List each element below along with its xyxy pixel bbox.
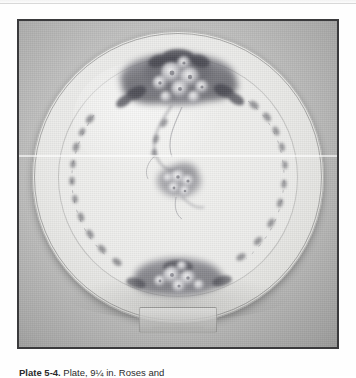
plate-floral-decoration [32,31,324,323]
bottom-floral-cluster [125,258,233,296]
garland-trail-right [235,99,288,262]
garland-trail-left [69,113,123,268]
caption-label: Plate 5-4. [19,367,61,378]
center-floral-spray [157,163,204,219]
center-spray-stem [182,197,204,208]
garland-line-right [246,101,284,259]
top-floral-cluster [114,49,247,110]
acrylic-plate-stand [139,307,217,333]
center-spray-stem-2 [175,197,182,219]
plate-object [32,31,324,323]
caption-text: Plate, 9¼ in. Roses and [63,367,164,378]
figure-photo-frame [17,19,339,349]
scan-top-rule [0,3,356,4]
figure-caption: Plate 5-4. Plate, 9¼ in. Roses and [19,367,349,378]
